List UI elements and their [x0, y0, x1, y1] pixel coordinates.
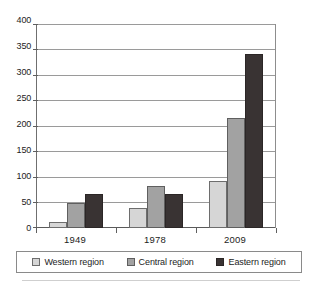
- x-axis-labels: 194919782009: [36, 234, 276, 248]
- y-tick-label: 250: [17, 94, 31, 103]
- y-tick-label: 350: [17, 42, 31, 51]
- y-tick-label: 50: [21, 198, 31, 207]
- bar-group-1978: [117, 24, 197, 228]
- bar-2009-central[interactable]: [227, 118, 245, 228]
- x-tick-mark: [196, 228, 197, 233]
- bar-2009-western[interactable]: [209, 181, 227, 228]
- chart-legend: Western region Central region Eastern re…: [16, 251, 302, 273]
- x-tick-label: 1978: [144, 234, 166, 246]
- y-axis-labels: 400 350 300 250 200 150 100 50 0: [0, 20, 34, 228]
- bar-group-1949: [37, 24, 117, 228]
- legend-item-eastern[interactable]: Eastern region: [216, 257, 285, 267]
- y-tick-label: 300: [17, 68, 31, 77]
- bar-1978-central[interactable]: [147, 186, 165, 228]
- bar-1949-western[interactable]: [49, 222, 67, 228]
- y-tick-label: 100: [17, 172, 31, 181]
- legend-swatch-eastern-icon: [216, 258, 224, 266]
- x-tick-label: 2009: [224, 234, 246, 246]
- legend-item-central[interactable]: Central region: [127, 257, 194, 267]
- x-tick-mark: [276, 228, 277, 233]
- bar-2009-eastern[interactable]: [245, 54, 263, 228]
- legend-swatch-central-icon: [127, 258, 135, 266]
- bar-group-2009: [197, 24, 277, 228]
- plot-wrapper: 400 350 300 250 200 150 100 50 0: [0, 6, 318, 246]
- bar-1978-western[interactable]: [129, 208, 147, 228]
- bars-layer: [37, 24, 275, 228]
- legend-item-western[interactable]: Western region: [32, 257, 103, 267]
- x-tick-mark: [116, 228, 117, 233]
- y-tick-label: 200: [17, 120, 31, 129]
- y-tick-label: 0: [26, 224, 31, 233]
- x-tick-label: 1949: [64, 234, 86, 246]
- clipped-caption: [2, 284, 252, 292]
- x-tick-mark: [36, 228, 37, 233]
- legend-swatch-western-icon: [32, 258, 40, 266]
- bar-1978-eastern[interactable]: [165, 194, 183, 228]
- legend-label-central: Central region: [139, 257, 194, 267]
- bar-chart-figure: 400 350 300 250 200 150 100 50 0: [0, 0, 318, 292]
- legend-label-eastern: Eastern region: [228, 257, 285, 267]
- plot-area: [36, 24, 276, 228]
- page-rule: [22, 280, 300, 281]
- y-tick-label: 150: [17, 146, 31, 155]
- y-tick-label: 400: [17, 16, 31, 25]
- bar-1949-central[interactable]: [67, 203, 85, 229]
- legend-label-western: Western region: [44, 257, 103, 267]
- bar-1949-eastern[interactable]: [85, 194, 103, 228]
